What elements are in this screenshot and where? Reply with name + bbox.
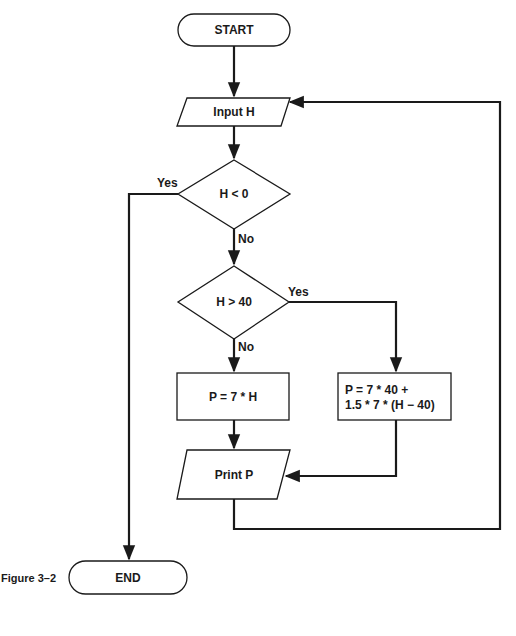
- print-label: Print P: [215, 468, 254, 482]
- edge-decision1-end: [129, 194, 178, 559]
- start-label: START: [214, 23, 253, 37]
- figure-caption: Figure 3–2: [1, 571, 56, 585]
- edge-overtime-print: [286, 420, 396, 476]
- decision1-label: H < 0: [219, 187, 248, 201]
- flowchart-canvas: [0, 0, 516, 636]
- edge-print-input-loop: [234, 102, 500, 529]
- end-label: END: [115, 571, 140, 585]
- process-overtime-line1: P = 7 * 40 +: [345, 383, 408, 398]
- decision2-yes-label: Yes: [288, 285, 309, 299]
- decision1-yes-label: Yes: [157, 176, 178, 190]
- decision1-no-label: No: [238, 232, 254, 246]
- process-regular-label: P = 7 * H: [209, 390, 257, 404]
- decision2-no-label: No: [238, 340, 254, 354]
- process-overtime-line2: 1.5 * 7 * (H − 40): [345, 398, 435, 413]
- edge-decision2-overtime: [289, 302, 396, 371]
- decision2-label: H > 40: [216, 295, 252, 309]
- input-label: Input H: [213, 105, 254, 119]
